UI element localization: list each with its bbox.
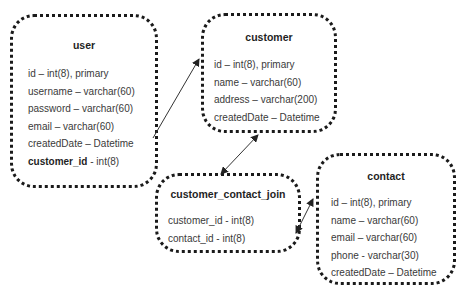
arrow-user-to-customer bbox=[153, 59, 199, 138]
arrow-join-contact bbox=[296, 199, 313, 233]
relationship-lines bbox=[0, 0, 461, 299]
arrow-customer-join bbox=[221, 135, 258, 174]
